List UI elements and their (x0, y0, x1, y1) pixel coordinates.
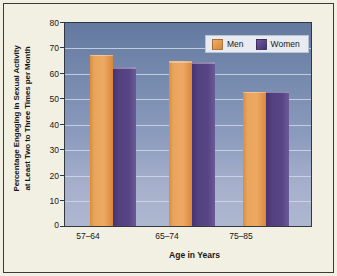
women-color-swatch-icon (256, 39, 267, 50)
bar-men-57-64[interactable] (90, 55, 113, 226)
y-axis-title: Percentage Engaging in Sexual Activity a… (12, 9, 33, 229)
x-tick-label-75-85: 75–85 (206, 231, 276, 241)
bar-highlight (243, 92, 266, 94)
y-tick-label-20: 20 (33, 171, 59, 181)
y-axis-title-line-2: at Least Two to Three Times per Month (22, 9, 33, 229)
bar-highlight (192, 62, 215, 64)
bar-highlight (169, 61, 192, 63)
bar-women-75-85[interactable] (266, 92, 289, 227)
bar-highlight (113, 67, 136, 69)
y-tick-label-10: 10 (33, 196, 59, 206)
legend-label-men: Men (227, 39, 244, 49)
chart-figure: Percentage Engaging in Sexual Activity a… (0, 0, 337, 276)
y-axis-title-line-1: Percentage Engaging in Sexual Activity (12, 45, 21, 191)
y-tick-label-30: 30 (33, 145, 59, 155)
chart-legend: Men Women (205, 35, 309, 53)
legend-label-women: Women (271, 39, 300, 49)
legend-item-women[interactable]: Women (256, 39, 300, 50)
legend-item-men[interactable]: Men (212, 39, 244, 50)
bar-men-75-85[interactable] (243, 92, 266, 227)
bar-highlight (266, 92, 289, 94)
x-tick-label-57-64: 57–64 (53, 231, 123, 241)
men-color-swatch-icon (212, 39, 223, 50)
bar-highlight (90, 55, 113, 57)
y-tick-label-40: 40 (33, 120, 59, 130)
x-tick-label-65-74: 65–74 (132, 231, 202, 241)
y-tick-label-60: 60 (33, 69, 59, 79)
x-axis-title: Age in Years (62, 250, 327, 260)
y-tick-label-80: 80 (33, 18, 59, 28)
plot-area: Men Women (64, 22, 312, 227)
bar-men-65-74[interactable] (169, 61, 192, 226)
y-tick-label-0: 0 (33, 220, 59, 230)
y-tick-label-70: 70 (33, 43, 59, 53)
bar-women-57-64[interactable] (113, 67, 136, 226)
y-tick-label-50: 50 (33, 94, 59, 104)
bar-women-65-74[interactable] (192, 62, 215, 226)
